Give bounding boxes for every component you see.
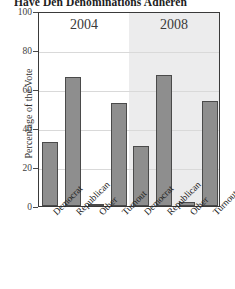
plot-area: 2004 2008 (38, 12, 220, 207)
bar-2008-turnout (202, 101, 218, 206)
y-tick-label-80: 80 (2, 46, 32, 56)
y-tick-label-100: 100 (2, 7, 32, 17)
y-tick-mark-0 (33, 207, 38, 208)
y-tick-label-0: 0 (2, 202, 32, 212)
chart-figure: Have Den Denominations Adheren Percentag… (0, 0, 235, 289)
y-tick-label-60: 60 (2, 85, 32, 95)
y-tick-label-20: 20 (2, 163, 32, 173)
bar-series (39, 13, 219, 206)
figure-title: Have Den Denominations Adheren (14, 0, 235, 8)
bar-2004-democrat (42, 142, 58, 206)
y-tick-label-40: 40 (2, 124, 32, 134)
bar-2004-turnout (111, 103, 127, 206)
